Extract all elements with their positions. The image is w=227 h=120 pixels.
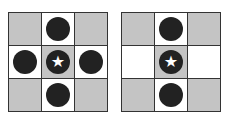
grid-cell [9,13,41,45]
grid-cell [42,13,74,45]
grid-cell [188,13,220,45]
grid-cell [188,79,220,111]
grid-cell [188,46,220,78]
star-stone-icon: ★ [159,50,183,74]
grid-cell: ★ [155,46,187,78]
grid-cell [75,13,107,45]
grid-cell: ★ [42,46,74,78]
grid-cell [75,46,107,78]
star-icon: ★ [164,54,178,70]
grid-cell [122,13,154,45]
stone-icon [79,50,103,74]
grid-cell [42,79,74,111]
right-grid-diagram: ★ [121,12,221,112]
grid-cell [122,46,154,78]
grid-cell [122,79,154,111]
grid-cell [9,46,41,78]
stone-icon [159,83,183,107]
stone-icon [159,17,183,41]
grid-cell [75,79,107,111]
star-icon: ★ [51,54,65,70]
grid-cell [155,79,187,111]
stone-icon [13,50,37,74]
grid-cell [155,13,187,45]
star-stone-icon: ★ [46,50,70,74]
stone-icon [46,17,70,41]
left-grid-diagram: ★ [8,12,108,112]
stone-icon [46,83,70,107]
grid-cell [9,79,41,111]
